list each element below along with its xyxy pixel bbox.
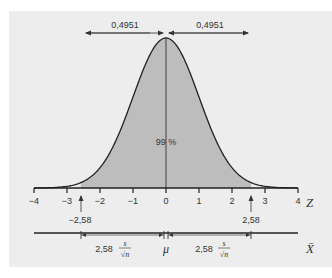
se-right-denominator: √n — [220, 250, 228, 259]
mu-label: μ — [162, 242, 169, 256]
top-left-probability: 0,4951 — [111, 20, 139, 30]
center-percentage-label: 99 % — [156, 137, 177, 147]
top-right-probability: 0,4951 — [196, 20, 224, 30]
z-tick-label: −2 — [95, 196, 105, 206]
crit-right-label: 2,58 — [242, 215, 260, 225]
z-tick-label: −3 — [62, 196, 72, 206]
z-tick-label: 1 — [196, 196, 201, 206]
z-axis-ticks: −4−3−2−101234 — [29, 188, 301, 206]
normal-distribution-chart: −4−3−2−101234 Z 0,4951 0,4951 99 % −2,58… — [0, 0, 332, 278]
z-tick-label: 3 — [262, 196, 267, 206]
z-tick-label: −4 — [29, 196, 39, 206]
z-axis-label: Z — [306, 195, 314, 210]
se-left-denominator: √n — [121, 250, 129, 259]
z-tick-label: 0 — [163, 196, 168, 206]
se-left-coefficient: 2,58 — [95, 244, 113, 254]
x-bar-axis-label: X̄ — [305, 241, 315, 256]
crit-left-label: −2,58 — [69, 215, 92, 225]
se-right-coefficient: 2,58 — [195, 244, 213, 254]
z-tick-label: 4 — [295, 196, 300, 206]
se-right-numerator: s — [222, 239, 225, 248]
z-tick-label: −1 — [128, 196, 138, 206]
z-tick-label: 2 — [229, 196, 234, 206]
se-left-numerator: s — [123, 239, 126, 248]
